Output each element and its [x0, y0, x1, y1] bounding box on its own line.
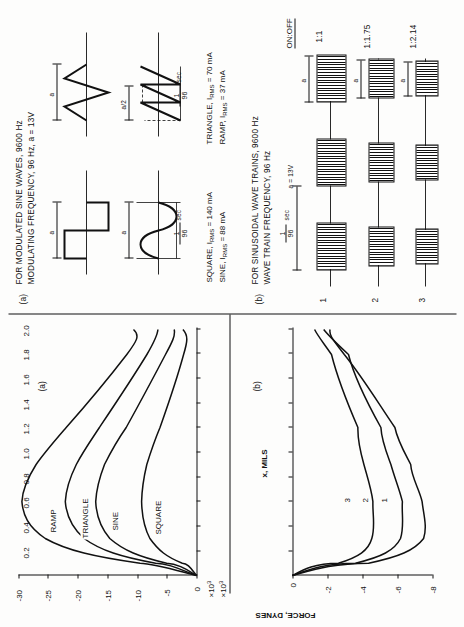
amp-tick-right: [356, 59, 365, 60]
panel-b-heading-1: FOR SINUSOIDAL WAVE TRAINS, 9600 Hz: [250, 115, 260, 284]
caption-wave: RAMP: [217, 122, 226, 144]
panel-a-diagram-label: (a): [18, 293, 28, 304]
period-den: 96: [286, 229, 293, 237]
x-tick-label: 0.2: [21, 547, 30, 558]
x-tick-label: 1.8: [21, 349, 30, 360]
panel-a-heading-2: MODULATING FREQUENCY, 96 Hz, a = 13V: [26, 111, 36, 284]
period-tick-right: [292, 185, 301, 186]
burst: [368, 142, 394, 182]
amp-tick-right: [403, 61, 412, 62]
period-num: 1: [172, 222, 180, 244]
x-tick-label: 1.4: [21, 399, 30, 410]
curve-label-1: 1: [379, 497, 388, 503]
period-den: 96: [180, 229, 187, 237]
period-label-row1: 1 96: [278, 224, 294, 242]
row-index-2: 2: [370, 297, 380, 302]
caption-wave: SQUARE: [204, 248, 213, 282]
curve-label-3: 3: [342, 497, 351, 503]
period-unit-ramp: sec: [174, 71, 182, 82]
amp-dim-line: [407, 62, 408, 96]
caption-square: SQUARE, IRMS = 140 mA: [204, 191, 215, 282]
amp-label-row3: a: [398, 78, 406, 82]
panel-b-curves: [229, 314, 456, 627]
amp-label-ramp: a/2: [119, 100, 127, 109]
period-num: 1: [278, 224, 286, 242]
period-num: 1: [172, 84, 180, 106]
x-tick-label: 0.8: [21, 473, 30, 484]
panel-b-diagram: (b) FOR SINUSOIDAL WAVE TRAINS, 9600 Hz …: [240, 2, 456, 310]
onoff-value-3: 1:2.14: [408, 24, 418, 48]
onoff-value-2: 1:1.75: [362, 24, 372, 48]
panel-b-label: (b): [251, 381, 261, 391]
caption-value: = 70 mA: [204, 52, 213, 82]
waveform-square: a: [52, 160, 116, 280]
amp-dim-line: [308, 56, 309, 102]
period-unit-sine: sec: [174, 209, 182, 220]
period-dim-line: [296, 186, 297, 270]
amp-tick-left: [403, 95, 412, 96]
figure-page: 0 -5 -10 -15 -20 -25 -30 ×103 RAMP TRIAN…: [0, 0, 464, 627]
burst: [368, 226, 394, 266]
amp-tick-left: [356, 97, 365, 98]
caption-value: = 88 mA: [217, 211, 226, 241]
period-den: 96: [180, 91, 187, 99]
amp-label-square: a: [47, 230, 55, 234]
triangle-wave-path: [56, 22, 116, 142]
panel-a-curves: [0, 314, 229, 627]
amp-label-triangle: a: [47, 92, 55, 96]
x-tick-label: 2.0: [21, 325, 30, 336]
y-exp-sup-b: 3: [217, 580, 223, 583]
wave-train-row-3: a 3: [404, 54, 440, 290]
waveform-sine: a 1 96 sec: [124, 160, 194, 280]
burst: [368, 58, 394, 98]
period-unit-row1: sec: [282, 209, 290, 220]
onoff-header: ON:OFF: [284, 18, 295, 48]
waveform-ramp: a/2 1 96 sec: [124, 22, 194, 142]
amp-label-sine: a: [119, 230, 127, 234]
onoff-value-1: 1:1: [314, 30, 324, 42]
caption-sine: SINE, IRMS = 88 mA: [217, 211, 228, 282]
panel-b-plot: 0.2 0.4 0.6 0.8 1.0 1.2 1.4 1.6 1.8 2.0 …: [229, 314, 456, 627]
curve-3: [292, 329, 425, 575]
burst: [316, 138, 346, 186]
period-label-ramp: 1 96: [172, 84, 188, 106]
amp-tick-right: [304, 55, 313, 56]
panel-b-y-exponent: ×103: [217, 580, 228, 597]
panel-b-diagram-label: (b): [254, 293, 264, 304]
x-tick-label: 1.6: [21, 374, 30, 385]
panel-b-heading-2: WAVE TRAIN FREQUENCY, 96 Hz: [262, 150, 272, 284]
amp-label-row2: a: [351, 78, 359, 82]
panel-a-label: (a): [36, 381, 46, 391]
waveform-triangle: a: [52, 22, 116, 142]
amp-dim-line: [360, 60, 361, 98]
caption-sub: RMS: [222, 102, 228, 115]
x-tick-label: 1.2: [21, 423, 30, 434]
row-index-1: 1: [318, 297, 328, 302]
square-wave-path: [56, 160, 116, 280]
panel-a-diagram: (a) FOR MODULATED SINE WAVES, 9600 Hz MO…: [6, 2, 229, 310]
x-tick-label: 0.6: [21, 497, 30, 508]
period-label-sine: 1 96: [172, 222, 188, 244]
caption-value: = 140 mA: [204, 191, 213, 225]
burst: [316, 222, 346, 270]
burst: [316, 54, 346, 102]
caption-wave: SINE: [217, 263, 226, 282]
curve-label-ramp: RAMP: [48, 508, 57, 533]
caption-triangle: TRIANGLE, IRMS = 70 mA: [204, 52, 215, 144]
wave-train-row-1: a 1 96 sec 1: [302, 54, 344, 290]
y-exp-base-b: ×10: [219, 583, 228, 597]
curve-1: [292, 329, 373, 575]
curve-label-triangle: TRIANGLE: [80, 497, 89, 539]
amplitude-note: a = 13V: [286, 164, 294, 188]
curve-label-sine: SINE: [110, 510, 119, 531]
burst: [415, 60, 438, 96]
row-index-3: 3: [417, 297, 427, 302]
amp-label-row1: a: [299, 78, 307, 82]
curve-square: [141, 329, 196, 575]
burst: [415, 228, 438, 264]
caption-sub: RMS: [209, 84, 215, 97]
panel-a-plot: 0 -5 -10 -15 -20 -25 -30 ×103 RAMP TRIAN…: [0, 314, 229, 627]
x-tick-label: 0.4: [21, 522, 30, 533]
curve-2: [292, 329, 402, 575]
x-tick-label: 1.0: [21, 448, 30, 459]
